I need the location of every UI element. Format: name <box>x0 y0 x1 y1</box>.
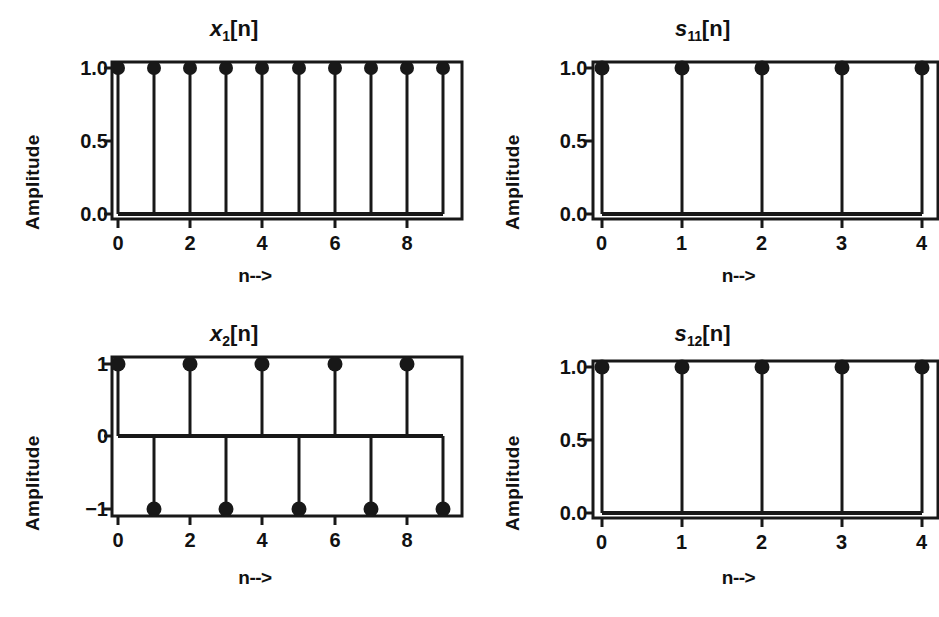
panel-x1: x1[n] Amplitude n--> 1.0 0.5 0.0 0 2 4 6… <box>0 0 469 309</box>
data-point-marker <box>754 61 769 76</box>
data-point-marker <box>183 356 198 371</box>
panel-x2: x2[n] Amplitude n--> 1 0 −1 0 2 4 6 8 <box>0 309 469 617</box>
data-point-marker <box>111 61 125 75</box>
data-point-marker <box>147 501 162 516</box>
data-point-marker <box>834 359 849 374</box>
panel-s11: s11[n] Amplitude n--> 1.0 0.5 0.0 0 1 2 … <box>469 0 938 309</box>
data-point-marker <box>364 501 379 516</box>
data-point-marker <box>364 61 378 75</box>
data-point-marker <box>834 61 849 76</box>
data-point-marker <box>914 359 929 374</box>
data-point-marker <box>914 61 929 76</box>
data-point-marker <box>436 501 451 516</box>
data-point-marker <box>674 359 689 374</box>
data-point-marker <box>594 359 609 374</box>
data-point-marker <box>292 61 306 75</box>
data-point-marker <box>674 61 689 76</box>
panel-s12: s12[n] Amplitude n--> 1.0 0.5 0.0 0 1 2 … <box>469 309 938 617</box>
data-point-marker <box>219 61 233 75</box>
data-point-marker <box>754 359 769 374</box>
plot-area-s12 <box>469 309 939 609</box>
data-point-marker <box>594 61 609 76</box>
data-point-marker <box>219 501 234 516</box>
data-point-marker <box>255 356 270 371</box>
data-point-marker <box>400 356 415 371</box>
plot-area-s11 <box>469 0 939 300</box>
data-point-marker <box>400 61 414 75</box>
data-point-marker <box>147 61 161 75</box>
plot-area-x2 <box>0 309 470 609</box>
plot-area-x1 <box>0 0 470 300</box>
data-point-marker <box>183 61 197 75</box>
data-point-marker <box>328 61 342 75</box>
data-point-marker <box>436 61 450 75</box>
data-point-marker <box>255 61 269 75</box>
data-point-marker <box>328 356 343 371</box>
data-point-marker <box>111 356 126 371</box>
data-point-marker <box>292 501 307 516</box>
